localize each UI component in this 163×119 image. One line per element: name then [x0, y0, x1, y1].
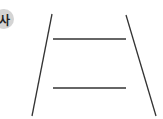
trapezoid-figure	[0, 0, 163, 119]
right-slanted-line	[126, 15, 156, 116]
left-slanted-line	[32, 14, 52, 116]
